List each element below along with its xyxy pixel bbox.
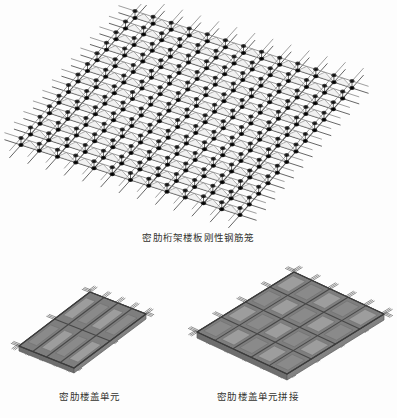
rebar-cage-illustration bbox=[2, 4, 395, 228]
figure-rebar-cage bbox=[2, 4, 395, 228]
floor-assembly-illustration bbox=[188, 262, 393, 388]
figure-floor-unit bbox=[8, 278, 168, 386]
floor-assembly-group bbox=[188, 266, 392, 380]
figure-floor-unit-splice bbox=[188, 262, 393, 388]
caption-rebar-cage: 密肋桁架楼板刚性钢筋笼 bbox=[0, 232, 397, 244]
floor-unit-group bbox=[11, 286, 154, 373]
caption-floor-unit: 密肋楼盖单元 bbox=[25, 391, 155, 403]
figure-page: 密肋桁架楼板刚性钢筋笼 密肋楼盖单元 密肋楼盖单元拼接 bbox=[0, 0, 397, 418]
rebar-mesh-group bbox=[5, 4, 368, 228]
caption-floor-unit-splice: 密肋楼盖单元拼接 bbox=[178, 391, 338, 403]
floor-unit-illustration bbox=[8, 278, 168, 386]
